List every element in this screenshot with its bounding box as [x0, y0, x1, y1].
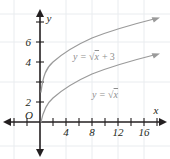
x-tick-label-8: 8: [89, 126, 95, 138]
y-tick-label-6: 6: [26, 36, 32, 48]
svg-text:y=√x+3: y=√x+3: [72, 51, 115, 62]
x-tick-label-16: 16: [139, 126, 151, 138]
y-axis-label: y: [46, 12, 52, 24]
y-tick-label-2: 2: [26, 96, 32, 108]
origin-label: O: [25, 109, 33, 121]
curve-lower-sqrt-x: [41, 53, 160, 122]
x-axis-label: x: [153, 104, 159, 116]
lower-label-radicand: x: [113, 89, 119, 100]
y-tick-label-4: 4: [26, 56, 32, 68]
lower-label-lhs: y: [91, 89, 97, 100]
upper-label-constant: 3: [110, 51, 115, 62]
upper-label-eq: =: [80, 51, 86, 62]
y-tick-labels: 2 4 6: [26, 36, 32, 108]
x-tick-labels: 4 8 12 16: [63, 126, 150, 138]
curve-label-upper: y=√x+3: [72, 51, 115, 62]
curve-label-lower: y=√x: [91, 89, 119, 100]
curve-upper-sqrt-x-plus-3: [41, 17, 160, 92]
lower-label-eq: =: [99, 89, 105, 100]
upper-label-lhs: y: [72, 51, 78, 62]
upper-label-plus: +: [102, 51, 108, 62]
svg-text:y=√x: y=√x: [91, 89, 119, 100]
x-tick-label-4: 4: [63, 126, 69, 138]
x-tick-label-12: 12: [113, 126, 125, 138]
coordinate-plane-svg: 4 8 12 16 2 4 6 O x y y=√x+3 y=√x: [0, 0, 170, 159]
upper-label-radicand: x: [94, 51, 100, 62]
graph-figure: 4 8 12 16 2 4 6 O x y y=√x+3 y=√x: [0, 0, 170, 159]
